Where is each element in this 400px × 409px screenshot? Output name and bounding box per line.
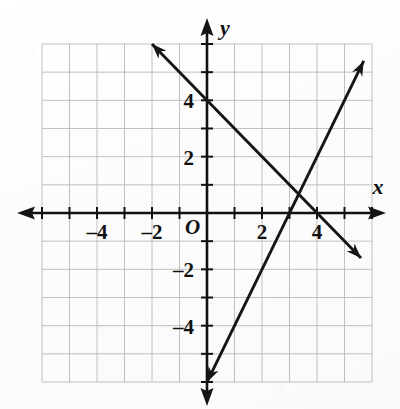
x-tick-label: –4	[86, 220, 109, 244]
origin-label: O	[185, 215, 200, 239]
x-tick-label: 4	[312, 220, 323, 244]
coordinate-plane-svg: –4–22442–2–4 O x y	[0, 0, 400, 409]
axes	[17, 18, 386, 406]
y-axis-label: y	[217, 15, 230, 40]
y-tick-label: 4	[184, 89, 195, 113]
y-tick-label: 2	[184, 146, 195, 170]
x-axis-label: x	[372, 174, 384, 199]
x-tick-label: 2	[257, 220, 268, 244]
line-ascending-line	[207, 61, 364, 382]
graph-figure: –4–22442–2–4 O x y	[0, 0, 400, 409]
y-tick-label: –2	[172, 258, 194, 282]
x-tick-label: –2	[141, 220, 163, 244]
y-tick-label: –4	[172, 315, 195, 339]
